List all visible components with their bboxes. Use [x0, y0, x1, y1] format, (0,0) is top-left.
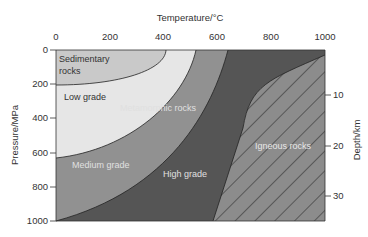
label-sedimentary-1: Sedimentary [59, 54, 110, 64]
svg-text:800: 800 [263, 31, 279, 42]
svg-text:10: 10 [333, 89, 344, 100]
label-low-grade: Low grade [64, 92, 106, 102]
y2-axis-title: Depth/km [351, 120, 362, 161]
label-igneous: Igneous rocks [255, 141, 312, 151]
svg-text:20: 20 [333, 140, 344, 151]
svg-text:1000: 1000 [27, 215, 48, 226]
y-tick-labels: 0 200 400 600 800 1000 [27, 44, 48, 226]
x-axis-title: Temperature/°C [157, 12, 224, 23]
svg-text:400: 400 [155, 31, 171, 42]
svg-text:0: 0 [43, 44, 48, 55]
label-metamorphic: Metamorphic rocks [120, 103, 197, 113]
label-high-grade: High grade [163, 169, 207, 179]
y2-tick-labels: 10 20 30 [333, 89, 344, 201]
svg-text:200: 200 [32, 78, 48, 89]
y-axis-title: Pressure/MPa [9, 104, 20, 165]
label-medium-grade: Medium grade [72, 160, 130, 170]
plot-regions [56, 50, 325, 221]
svg-text:1000: 1000 [314, 31, 335, 42]
svg-text:400: 400 [32, 112, 48, 123]
svg-text:0: 0 [53, 31, 58, 42]
svg-text:200: 200 [102, 31, 118, 42]
svg-text:30: 30 [333, 190, 344, 201]
svg-text:600: 600 [209, 31, 225, 42]
label-sedimentary-2: rocks [59, 66, 81, 76]
rock-pt-diagram: Temperature/°C 0 200 400 600 800 1000 [0, 0, 368, 237]
x-tick-labels: 0 200 400 600 800 1000 [53, 31, 335, 42]
svg-text:600: 600 [32, 147, 48, 158]
svg-text:800: 800 [32, 181, 48, 192]
